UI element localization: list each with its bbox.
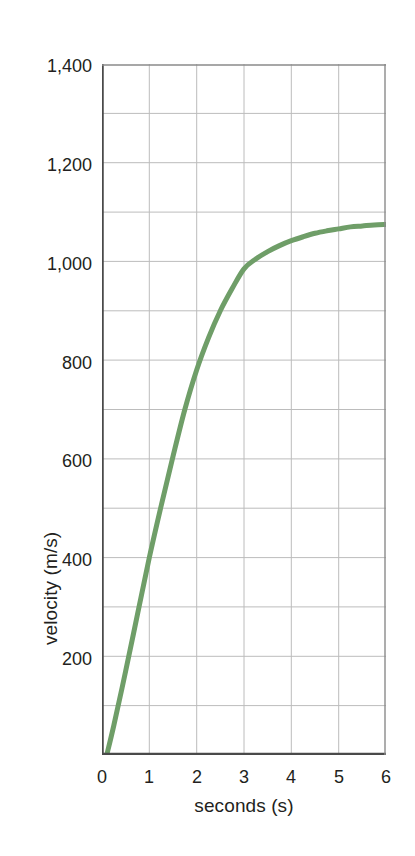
x-tick-label: 6 — [366, 768, 406, 786]
x-tick-label: 1 — [129, 768, 169, 786]
x-tick-label: 4 — [271, 768, 311, 786]
chart-figure: velocity (m/s) 1,400 1,200 1,000 800 600… — [0, 0, 415, 856]
x-tick-label: 5 — [319, 768, 359, 786]
x-tick-label: 3 — [224, 768, 264, 786]
x-axis-tick-labels: 0 1 2 3 4 5 6 — [0, 0, 415, 856]
x-tick-label: 2 — [177, 768, 217, 786]
x-axis-title: seconds (s) — [102, 795, 386, 817]
x-tick-label: 0 — [82, 768, 122, 786]
